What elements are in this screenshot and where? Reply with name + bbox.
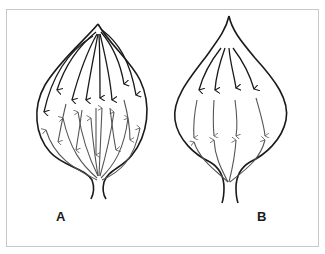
leaf-b-arrows-up (194, 140, 265, 182)
leaf-a-veins-light (46, 100, 140, 180)
leaf-a-veins-dark (44, 30, 136, 112)
leaf-b-arrows-mid-down (194, 98, 265, 138)
leaf-b (175, 16, 287, 203)
diagram-canvas (0, 0, 325, 254)
leaf-a (37, 24, 147, 199)
panel-label-b: B (257, 209, 266, 224)
panel-label-a: A (56, 209, 65, 224)
